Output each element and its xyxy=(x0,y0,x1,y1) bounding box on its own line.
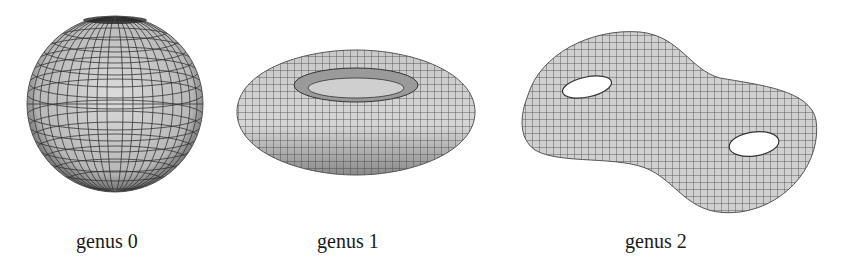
label-genus-2: genus 2 xyxy=(625,230,687,253)
label-genus-0: genus 0 xyxy=(76,230,138,253)
double-torus-genus-2 xyxy=(515,25,825,220)
sphere-genus-0 xyxy=(27,16,203,192)
genus-figure xyxy=(0,0,844,220)
label-genus-1: genus 1 xyxy=(317,230,379,253)
torus-genus-1 xyxy=(237,50,477,176)
